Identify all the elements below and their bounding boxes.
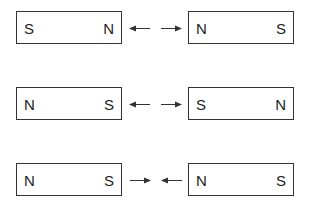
magnet-row3-right: N S — [188, 163, 294, 196]
magnet-row3-left: N S — [16, 163, 122, 196]
arrow-left-icon — [129, 100, 151, 109]
magnet-row1-left: S N — [16, 11, 122, 44]
pole-label: S — [276, 20, 286, 35]
arrow-right-icon — [160, 24, 182, 33]
pole-label: S — [276, 172, 286, 187]
pole-label: S — [104, 172, 114, 187]
pole-label: N — [24, 96, 35, 111]
arrow-right-icon — [160, 100, 182, 109]
pole-label: S — [24, 20, 34, 35]
magnet-row1-right: N S — [188, 11, 294, 44]
arrow-left-icon — [161, 176, 183, 185]
pole-label: N — [196, 172, 207, 187]
pole-label: S — [196, 96, 206, 111]
pole-label: N — [275, 96, 286, 111]
magnet-row2-right: S N — [188, 87, 294, 120]
pole-label: N — [196, 20, 207, 35]
pole-label: N — [24, 172, 35, 187]
arrow-right-icon — [129, 176, 151, 185]
magnet-row2-left: N S — [16, 87, 122, 120]
pole-label: S — [104, 96, 114, 111]
arrow-left-icon — [129, 24, 151, 33]
pole-label: N — [103, 20, 114, 35]
